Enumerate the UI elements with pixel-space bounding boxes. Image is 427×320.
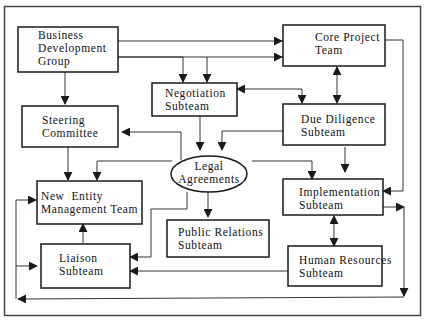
diagram-canvas: Business Development Group Core Project … (0, 0, 427, 320)
edge-bdg-neg (118, 57, 183, 82)
svg-text:Team: Team (315, 44, 343, 56)
edge-core-impl (383, 40, 403, 191)
svg-text:Subteam: Subteam (59, 265, 103, 277)
svg-text:Management Team: Management Team (41, 203, 138, 216)
svg-text:Group: Group (38, 55, 70, 68)
svg-text:Legal: Legal (194, 160, 223, 173)
node-steering-committee: Steering Committee (22, 106, 118, 147)
edge-loop-bottom (18, 297, 404, 299)
edge-due-legal (222, 131, 284, 150)
svg-text:Implementation: Implementation (299, 186, 380, 199)
svg-text:Committee: Committee (42, 127, 99, 139)
node-legal-agreements: Legal Agreements (171, 156, 247, 192)
edge-legal-impl (252, 161, 312, 179)
node-core-project-team: Core Project Team (283, 25, 385, 66)
node-business-development-group: Business Development Group (18, 27, 118, 72)
node-public-relations-subteam: Public Relations Subteam (167, 220, 269, 257)
svg-text:Liaison: Liaison (59, 252, 98, 264)
edge-legal-steer (122, 132, 181, 160)
svg-text:Subteam: Subteam (178, 239, 222, 251)
node-implementation-subteam: Implementation Subteam (283, 179, 383, 215)
svg-text:Subteam: Subteam (299, 199, 343, 211)
node-due-diligence-subteam: Due Diligence Subteam (283, 104, 385, 145)
svg-text:New Entity: New Entity (41, 190, 103, 203)
node-liaison-subteam: Liaison Subteam (41, 244, 130, 288)
svg-text:Steering: Steering (42, 114, 85, 127)
node-new-entity-management-team: New Entity Management Team (37, 181, 142, 224)
svg-text:Subteam: Subteam (165, 100, 209, 112)
svg-text:Negotiation: Negotiation (165, 87, 226, 100)
svg-text:Due Diligence: Due Diligence (301, 113, 376, 126)
svg-text:Subteam: Subteam (299, 267, 343, 279)
svg-text:Public Relations: Public Relations (178, 226, 263, 238)
node-human-resources-subteam: Human Resources Subteam (288, 246, 392, 286)
svg-text:Subteam: Subteam (301, 126, 345, 138)
svg-text:Human Resources: Human Resources (299, 254, 392, 266)
edge-legal-nemt (97, 161, 172, 180)
svg-text:Business: Business (38, 29, 84, 41)
edge-neg-due (237, 89, 302, 103)
svg-text:Agreements: Agreements (178, 173, 240, 186)
svg-text:Development: Development (38, 42, 107, 55)
svg-text:Core Project: Core Project (315, 31, 380, 44)
node-negotiation-subteam: Negotiation Subteam (152, 83, 237, 116)
